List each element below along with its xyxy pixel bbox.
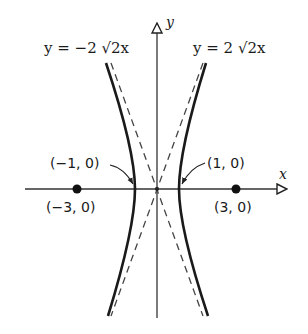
- focus-right-label: (3, 0): [214, 199, 252, 215]
- y-axis-label: y: [165, 14, 175, 30]
- focus-right-dot: [232, 185, 241, 194]
- focus-left-label: (−3, 0): [46, 199, 95, 215]
- x-axis-label: x: [279, 166, 287, 182]
- hyperbola-diagram: x y (−3, 0) (3, 0) (−1, 0) (1, 0) y = −2…: [0, 0, 308, 334]
- asymptote-positive-label: y = 2 √2x: [192, 39, 266, 57]
- vertex-right-leader-arrow: [182, 163, 205, 184]
- vertex-left-leader-arrow: [110, 165, 133, 184]
- vertex-right-label: (1, 0): [207, 155, 245, 171]
- origin-point: [155, 187, 159, 191]
- focus-left-dot: [73, 185, 82, 194]
- asymptote-negative-label: y = −2 √2x: [43, 39, 130, 57]
- vertex-left-label: (−1, 0): [50, 155, 99, 171]
